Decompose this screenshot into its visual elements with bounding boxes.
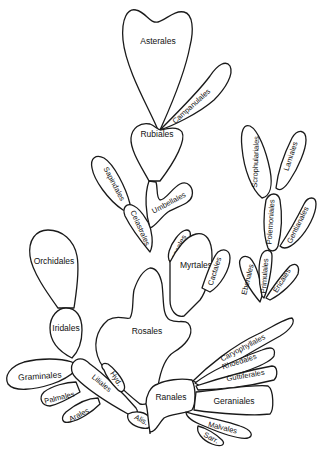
node-polemoniales: Polemoniales	[264, 194, 281, 251]
svg-text:Asterales: Asterales	[140, 36, 175, 46]
node-gentianales: Gentianales	[280, 198, 316, 248]
node-scrophulariales: Scrophulariales	[241, 126, 271, 198]
svg-text:Orchidales: Orchidales	[34, 256, 75, 266]
svg-text:Scrophulariales: Scrophulariales	[250, 136, 261, 188]
node-rubiales: Rubiales	[131, 124, 183, 181]
node-sapindales: Sapindales	[92, 156, 131, 210]
svg-text:Ranales: Ranales	[155, 392, 186, 402]
node-umbellales: Umbellales	[146, 181, 192, 228]
phylogeny-diagram: Asterales Campanulales Rubiales Sapindal…	[0, 0, 328, 453]
svg-text:Iridales: Iridales	[52, 323, 79, 333]
svg-text:Primulales: Primulales	[259, 258, 270, 294]
svg-text:Rubiales: Rubiales	[140, 129, 173, 139]
node-ranales: Ranales	[146, 379, 195, 432]
node-malvales: Malvales	[186, 412, 251, 438]
node-iridales: Iridales	[50, 308, 82, 358]
node-ebenales: Ebenales	[239, 256, 262, 302]
svg-text:Rosales: Rosales	[132, 326, 163, 336]
svg-text:Myrtales: Myrtales	[180, 260, 212, 270]
node-arales: Arales	[63, 398, 100, 423]
node-lamiales: Lamiales	[276, 131, 306, 189]
svg-text:Geraniales: Geraniales	[213, 396, 254, 406]
node-orchidales: Orchidales	[30, 230, 78, 308]
